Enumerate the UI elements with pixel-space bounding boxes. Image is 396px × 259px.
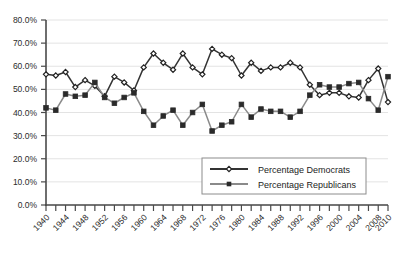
data-point-marker — [327, 85, 332, 90]
data-point-marker — [141, 109, 146, 114]
data-point-marker — [268, 65, 273, 70]
y-tick-label: 40.0% — [13, 108, 38, 118]
y-tick-label: 50.0% — [13, 84, 38, 94]
series-line — [46, 49, 388, 102]
y-tick-label: 60.0% — [13, 61, 38, 71]
data-point-marker — [220, 123, 225, 128]
data-point-marker — [278, 109, 283, 114]
data-point-marker — [259, 107, 264, 112]
x-tick-label: 1988 — [265, 212, 286, 233]
data-point-marker — [239, 102, 244, 107]
data-point-marker — [63, 92, 68, 97]
data-point-marker — [288, 115, 293, 120]
x-tick-label: 1944 — [51, 212, 72, 233]
x-tick-label: 1952 — [90, 212, 111, 233]
data-point-marker — [337, 90, 342, 95]
x-tick-label: 2004 — [344, 212, 365, 233]
legend-label: Percentage Democrats — [258, 165, 351, 175]
data-point-marker — [346, 94, 351, 99]
data-point-marker — [200, 102, 205, 107]
data-point-marker — [53, 73, 58, 78]
series-republicans — [44, 74, 391, 133]
data-point-marker — [347, 81, 352, 86]
x-tick-label: 1968 — [168, 212, 189, 233]
data-point-marker — [327, 90, 332, 95]
x-tick-label: 1948 — [70, 212, 91, 233]
y-tick-label: 70.0% — [13, 38, 38, 48]
data-point-marker — [122, 95, 127, 100]
y-axis-ticks: 80.0%70.0%60.0%50.0%40.0%30.0%20.0%10.0%… — [13, 15, 46, 210]
chart-container: 80.0%70.0%60.0%50.0%40.0%30.0%20.0%10.0%… — [0, 0, 396, 259]
data-point-marker — [308, 93, 313, 98]
data-point-marker — [210, 129, 215, 134]
line-chart: 80.0%70.0%60.0%50.0%40.0%30.0%20.0%10.0%… — [0, 0, 396, 259]
y-tick-label: 10.0% — [13, 177, 38, 187]
x-tick-label: 1940 — [31, 212, 52, 233]
x-tick-label: 2000 — [324, 212, 345, 233]
x-tick-label: 1972 — [187, 212, 208, 233]
data-point-marker — [132, 91, 137, 96]
x-tick-label: 1976 — [207, 212, 228, 233]
y-tick-label: 30.0% — [13, 131, 38, 141]
x-tick-label: 1984 — [246, 212, 267, 233]
data-point-marker — [317, 82, 322, 87]
x-tick-label: 1964 — [148, 212, 169, 233]
data-point-marker — [337, 85, 342, 90]
series-democrats — [43, 46, 390, 104]
data-point-marker — [43, 72, 48, 77]
data-point-marker — [161, 114, 166, 119]
data-point-marker — [268, 109, 273, 114]
data-point-marker — [190, 110, 195, 115]
data-point-marker — [83, 93, 88, 98]
x-tick-label: 1980 — [226, 212, 247, 233]
y-tick-label: 80.0% — [13, 15, 38, 25]
y-tick-label: 20.0% — [13, 154, 38, 164]
data-point-marker — [93, 80, 98, 85]
data-point-marker — [73, 94, 78, 99]
data-point-marker — [112, 101, 117, 106]
x-tick-label: 1996 — [305, 212, 326, 233]
data-point-marker — [385, 99, 390, 104]
data-point-marker — [386, 74, 391, 79]
legend-marker-square-icon — [227, 182, 232, 187]
data-point-marker — [53, 108, 58, 113]
data-point-marker — [229, 119, 234, 124]
x-tick-label: 1992 — [285, 212, 306, 233]
x-tick-label: 1960 — [129, 212, 150, 233]
data-point-marker — [151, 123, 156, 128]
data-point-marker — [249, 115, 254, 120]
data-point-marker — [102, 95, 107, 100]
data-point-marker — [356, 80, 361, 85]
legend-label: Percentage Republicans — [258, 180, 357, 190]
data-point-marker — [171, 108, 176, 113]
data-point-marker — [44, 106, 49, 111]
data-point-marker — [288, 60, 293, 65]
data-point-marker — [366, 96, 371, 101]
x-axis-ticks: 1940194419481952195619601964196819721976… — [31, 205, 394, 233]
y-tick-label: 0.0% — [18, 200, 38, 210]
x-tick-label: 1956 — [109, 212, 130, 233]
data-point-marker — [298, 109, 303, 114]
data-point-marker — [181, 123, 186, 128]
data-point-marker — [376, 108, 381, 113]
data-point-marker — [278, 65, 283, 70]
legend: Percentage DemocratsPercentage Republica… — [202, 158, 366, 194]
